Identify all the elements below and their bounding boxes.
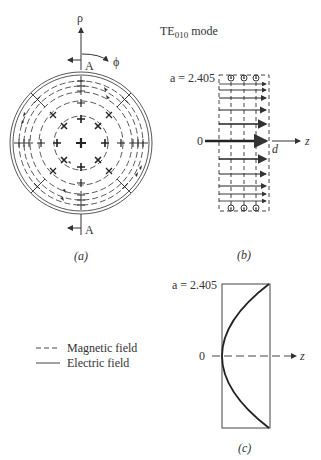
section-label-bottom: A xyxy=(85,223,94,237)
panel-b-origin-label: 0 xyxy=(197,134,203,148)
panel-b-length-label: d xyxy=(272,142,279,156)
panel-b: a = 2.405 0 d z ( xyxy=(170,71,310,262)
diagram-title: TE010 mode xyxy=(160,24,218,40)
panel-a: ρ ϕ A xyxy=(10,11,152,263)
panel-b-axis-label: z xyxy=(304,134,310,148)
panel-b-top-label: a = 2.405 xyxy=(170,71,215,85)
section-label-top: A xyxy=(85,59,94,73)
panel-c-origin-label: 0 xyxy=(199,349,205,363)
panel-c: a = 2.405 0 z (c) xyxy=(172,278,305,455)
legend-magnetic-label: Magnetic field xyxy=(67,341,137,355)
electric-field-markers xyxy=(14,76,148,210)
panel-c-top-label: a = 2.405 xyxy=(172,278,217,292)
te010-diagram: TE010 mode ρ ϕ A xyxy=(0,0,321,460)
phi-label: ϕ xyxy=(113,55,119,69)
panel-c-axis-label: z xyxy=(299,349,305,363)
panel-b-caption: (b) xyxy=(237,248,251,262)
rho-label: ρ xyxy=(77,11,83,25)
legend-electric-label: Electric field xyxy=(67,356,129,370)
electric-field-arrows xyxy=(205,84,266,201)
panel-c-caption: (c) xyxy=(238,441,251,455)
panel-a-caption: (a) xyxy=(74,249,88,263)
legend: Magnetic field Electric field xyxy=(36,341,137,370)
